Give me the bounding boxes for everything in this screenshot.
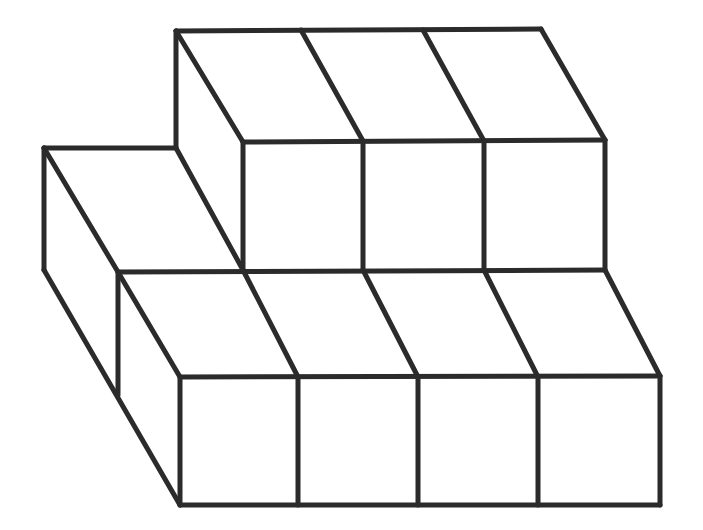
background: [0, 0, 703, 530]
cube-edge: [176, 29, 541, 31]
cube-edge: [243, 140, 605, 142]
stacked-cubes-diagram: [0, 0, 703, 530]
